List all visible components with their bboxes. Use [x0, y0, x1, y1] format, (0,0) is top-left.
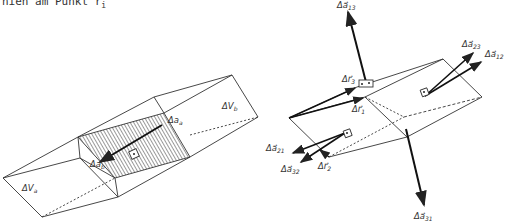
label-r1: Δr⃗1 — [351, 104, 365, 115]
r2-arrow — [320, 150, 329, 157]
label-a31: Δa⃗31 — [413, 211, 433, 222]
a12-arrow — [425, 62, 481, 96]
a31-arrow — [406, 129, 424, 205]
label-a13: Δa⃗13 — [336, 0, 356, 11]
label-area-a: Δaa — [167, 115, 183, 126]
label-a23: Δa⃗23 — [461, 39, 481, 50]
label-a21: Δa⃗21 — [265, 143, 285, 154]
point-marker-3 — [359, 80, 373, 87]
a23-arrow — [425, 53, 473, 96]
label-volume-b: ΔVb — [221, 101, 238, 112]
label-a12: Δa⃗12 — [484, 49, 504, 60]
diagram-canvas: ΔVa ΔVb Δaa Δab Δa⃗13 Δa⃗23 Δa⃗12 — [0, 0, 506, 222]
label-r2: Δr⃗2 — [317, 161, 331, 172]
label-volume-a: ΔVa — [21, 183, 38, 194]
label-r3: Δr⃗3 — [341, 74, 355, 85]
prism-edges — [289, 59, 482, 157]
right-prism-figure — [289, 12, 482, 205]
label-a32: Δa⃗32 — [280, 164, 300, 175]
left-prism-figure — [3, 75, 258, 217]
